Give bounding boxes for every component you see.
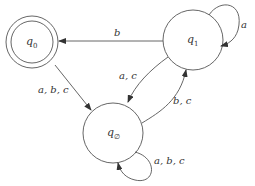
arrow-q1-loop — [209, 5, 239, 46]
transition-q0-qempty: a, b, c — [38, 65, 91, 110]
label-q1-qempty: a, c — [119, 70, 137, 81]
arrow-qempty-loop — [118, 152, 152, 181]
automaton-diagram: q0 q1 q∅ b a a, b, c a, c b, c a, b, c — [0, 0, 255, 186]
state-qempty: q∅ — [83, 103, 143, 163]
transition-qempty-qempty: a, b, c — [118, 152, 185, 181]
transition-q1-q0: b — [59, 27, 163, 41]
label-qempty-q1: b, c — [173, 95, 192, 106]
label-q1-q0: b — [114, 27, 120, 38]
transition-qempty-q1: b, c — [142, 70, 192, 123]
label-qempty-loop: a, b, c — [154, 155, 185, 166]
label-q0-qempty: a, b, c — [38, 84, 69, 95]
q0-label: q0 — [26, 35, 38, 50]
state-q0: q0 — [6, 16, 58, 68]
transition-q1-q1: a — [209, 5, 247, 46]
transition-q1-qempty: a, c — [119, 57, 168, 102]
q1-label: q1 — [187, 33, 199, 48]
qempty-label: q∅ — [107, 126, 120, 141]
label-q1-loop: a — [241, 19, 247, 30]
state-q1: q1 — [163, 10, 223, 70]
